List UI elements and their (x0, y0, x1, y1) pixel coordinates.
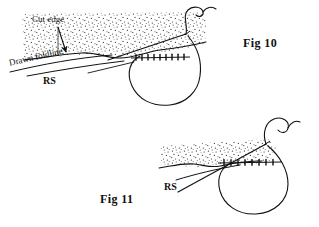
fig11-rs-label: RS (164, 181, 177, 192)
fig10-thread-tail-extension (203, 7, 216, 12)
fig-11-caption: Fig 11 (100, 192, 133, 207)
fig-11-artwork (159, 118, 300, 214)
fig10-cut-edge-label: Cut edge (32, 14, 64, 24)
fig11-thread-tail-extension (288, 121, 300, 128)
fig11-rs-edge-line (176, 165, 240, 180)
figure-page: Cut edge Drawn foldline RS Fig 10 RS Fig… (0, 0, 319, 227)
figure-artwork (0, 0, 319, 227)
fig10-underlayer-tick (88, 62, 134, 73)
fig-10-caption: Fig 10 (243, 36, 277, 51)
fig10-rs-label: RS (43, 75, 56, 86)
fig10-rs-edge-line (27, 61, 124, 76)
